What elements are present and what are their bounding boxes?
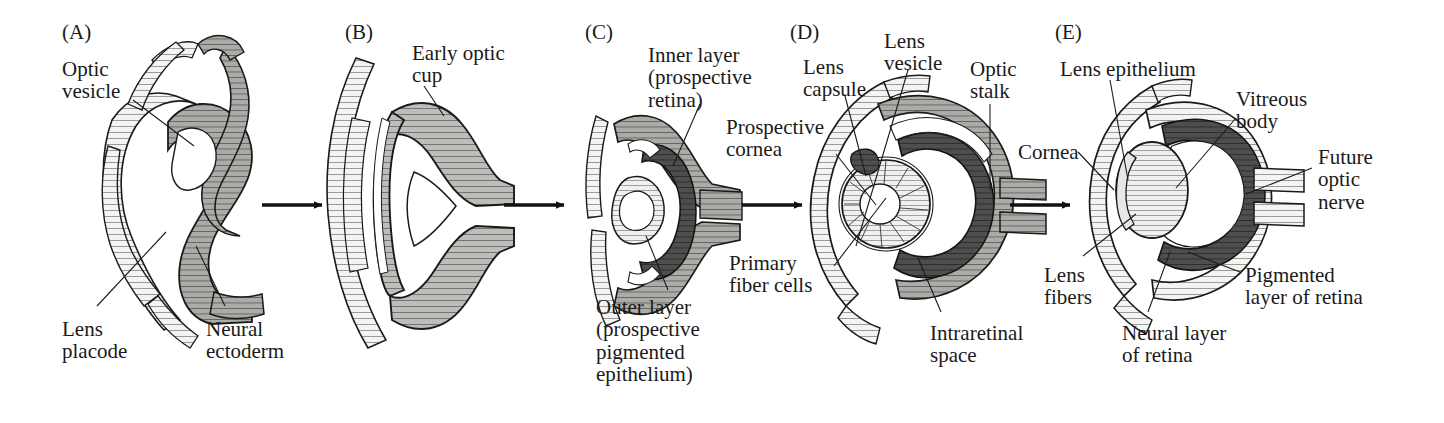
label-intraretinal-space: Intraretinal space: [930, 322, 1023, 367]
panel-c-lens-pit-lumen: [620, 191, 655, 230]
panel-a-artwork: [102, 36, 264, 348]
panel-d-optic-stalk-lower: [1000, 212, 1046, 234]
panel-c-optic-stalk: [700, 190, 742, 220]
panel-d-ectoderm-upper-tip: [884, 75, 930, 98]
panel-c-surface-ectoderm-upper: [586, 116, 608, 218]
panel-letter-e: (E): [1055, 22, 1082, 43]
label-lens-fibers: Lens fibers: [1044, 264, 1092, 309]
label-vitreous-body: Vitreous body: [1236, 88, 1307, 133]
panel-letter-c: (C): [585, 22, 613, 43]
panel-a-neural-ectoderm-tail: [210, 292, 264, 319]
label-cornea: Cornea: [1018, 141, 1079, 163]
label-lens-placode: Lens placode: [62, 318, 127, 363]
label-lens-epithelium: Lens epithelium: [1060, 58, 1196, 80]
panel-d-lens-vesicle-lumen: [860, 184, 900, 224]
label-lens-capsule: Lens capsule: [803, 56, 866, 101]
panel-d-optic-stalk-upper: [1000, 178, 1046, 200]
label-future-optic-nerve: Future optic nerve: [1318, 146, 1373, 213]
label-neural-layer-of-retina: Neural layer of retina: [1122, 322, 1226, 367]
label-lens-vesicle: Lens vesicle: [884, 30, 942, 75]
panel-b-optic-cup-lower: [390, 226, 514, 329]
panel-a-placode-thickening: [102, 146, 160, 306]
label-early-optic-cup: Early optic cup: [412, 42, 505, 87]
panel-d-artwork: [811, 75, 1046, 344]
panel-b-artwork: [327, 58, 514, 348]
label-optic-vesicle: Optic vesicle: [62, 58, 120, 103]
label-primary-fiber-cells: Primary fiber cells: [729, 252, 812, 297]
panel-e-optic-nerve-lower: [1254, 202, 1304, 226]
label-prospective-cornea: Prospective cornea: [726, 116, 824, 161]
label-optic-stalk: Optic stalk: [970, 58, 1017, 103]
label-inner-layer-prospective-retina: Inner layer (prospective retina): [648, 44, 752, 111]
label-neural-ectoderm: Neural ectoderm: [206, 318, 284, 363]
panel-b-lens-placode: [343, 118, 370, 272]
label-pigmented-layer-of-retina: Pigmented layer of retina: [1245, 264, 1363, 309]
panel-d-ectoderm-lower-tip: [838, 306, 880, 344]
panel-letter-d: (D): [790, 22, 819, 43]
eye-development-figure: (A)Optic vesicleLens placodeNeural ectod…: [0, 0, 1444, 423]
panel-letter-a: (A): [62, 22, 91, 43]
label-outer-layer-prospective-pigmented-epithelium: Outer layer (prospective pigmented epith…: [596, 296, 700, 385]
panel-letter-b: (B): [345, 22, 373, 43]
panel-e-ectoderm-upper-tip: [1152, 79, 1192, 102]
